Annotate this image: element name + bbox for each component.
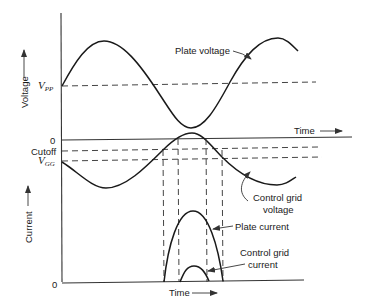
control-grid-current-curve <box>180 266 209 282</box>
projection-dash-3 <box>206 139 207 282</box>
control-grid-current-pointer-icon <box>208 264 245 271</box>
svg-text:Voltage: Voltage <box>19 76 30 108</box>
upper-time-label: Time <box>294 125 315 136</box>
control-grid-voltage-label-line2: voltage <box>263 204 294 215</box>
vpp-label: VPP <box>38 79 54 93</box>
upper-time-axis <box>62 137 352 140</box>
control-grid-voltage-pointer-icon <box>241 172 250 201</box>
vgg-dashed-line <box>62 157 322 161</box>
svg-text:Current: Current <box>23 211 34 243</box>
current-axis-label: Current <box>23 211 34 243</box>
vpp-dashed-line <box>62 82 316 86</box>
projection-dash-2 <box>178 139 179 282</box>
projection-dash-4 <box>222 150 223 282</box>
control-grid-current-label-line1: Control grid <box>240 247 289 258</box>
cutoff-dashed-line <box>62 147 318 151</box>
plate-voltage-label: Plate voltage <box>175 45 230 56</box>
projection-dash-1 <box>163 150 164 282</box>
control-grid-voltage-label-line1: Control grid <box>253 192 302 203</box>
plate-current-curve <box>164 211 223 282</box>
lower-time-label: Time <box>169 287 190 298</box>
plate-current-pointer-icon <box>213 226 233 229</box>
plate-current-label: Plate current <box>235 221 289 232</box>
upper-zero-label: 0 <box>50 135 55 146</box>
control-grid-current-label-line2: current <box>248 259 278 270</box>
vertical-axis <box>61 13 62 282</box>
voltage-axis-label: Voltage <box>19 76 30 108</box>
lower-time-axis <box>62 280 304 283</box>
tube-waveform-diagram: Voltage VPP Plate voltage 0 Time Cutoff … <box>0 0 378 306</box>
lower-zero-label: 0 <box>52 279 57 290</box>
